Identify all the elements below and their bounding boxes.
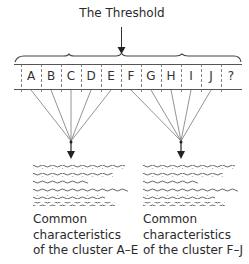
caption-line: characteristics bbox=[33, 228, 138, 244]
cell-g: G bbox=[141, 69, 161, 83]
cell-f: F bbox=[121, 69, 141, 83]
threshold-arrow bbox=[118, 27, 126, 54]
cell-b: B bbox=[41, 69, 61, 83]
cell-e: E bbox=[101, 69, 121, 83]
characteristics-lines-f-j bbox=[143, 165, 238, 206]
cell-d: D bbox=[81, 69, 101, 83]
cell-a: A bbox=[21, 69, 41, 83]
cluster-arrow-a-e bbox=[67, 141, 75, 160]
cluster-fan-a-e bbox=[31, 90, 111, 141]
cell-h: H bbox=[161, 69, 181, 83]
cell-i: I bbox=[181, 69, 201, 83]
caption-line: of the cluster A–E bbox=[33, 243, 138, 259]
characteristics-lines-a-e bbox=[33, 165, 128, 206]
caption-line: Common bbox=[143, 212, 243, 228]
cell-j: J bbox=[201, 69, 221, 83]
cell-c: C bbox=[61, 69, 81, 83]
caption-line: Common bbox=[33, 212, 138, 228]
cell-unknown: ? bbox=[221, 69, 241, 83]
caption-cluster-f-j: Common characteristics of the cluster F–… bbox=[143, 212, 243, 259]
diagram-title: The Threshold bbox=[0, 6, 244, 20]
brace bbox=[15, 53, 241, 62]
cluster-fan-f-j bbox=[131, 90, 211, 141]
caption-cluster-a-e: Common characteristics of the cluster A–… bbox=[33, 212, 138, 259]
cluster-arrow-f-j bbox=[177, 141, 185, 160]
caption-line: of the cluster F–J bbox=[143, 243, 243, 259]
caption-line: characteristics bbox=[143, 228, 243, 244]
